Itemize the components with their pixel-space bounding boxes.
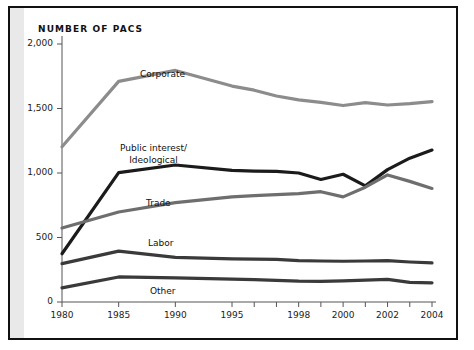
y-tick-label: 1,000 (27, 167, 53, 177)
chart-frame: NUMBER OF PACS 05001,0001,5002,000198019… (8, 6, 458, 340)
y-tick-label: 2,000 (27, 38, 53, 48)
line-chart-svg (10, 8, 460, 342)
y-tick-label: 500 (36, 232, 53, 242)
series-label-line2: Ideological (120, 154, 187, 166)
x-tick-label: 1985 (103, 310, 135, 320)
series-label-3: Labor (148, 237, 173, 249)
x-tick-label: 1980 (46, 310, 78, 320)
y-tick-label: 0 (47, 296, 53, 306)
chart-page: NUMBER OF PACS 05001,0001,5002,000198019… (0, 0, 474, 350)
x-tick-label: 1995 (216, 310, 248, 320)
series-line-2 (62, 175, 432, 228)
x-tick-label: 2000 (327, 310, 359, 320)
plot-area: 05001,0001,5002,000198019851990199519982… (10, 8, 460, 342)
series-label-2: Trade (146, 197, 171, 209)
series-label-0: Corporate (140, 68, 185, 80)
y-tick-label: 1,500 (27, 103, 53, 113)
series-label-1: Public interest/Ideological (120, 142, 187, 166)
series-line-3 (62, 251, 432, 264)
x-tick-label: 1990 (159, 310, 191, 320)
series-label-4: Other (150, 285, 176, 297)
series-line-4 (62, 277, 432, 288)
series-group (62, 70, 432, 287)
series-line-0 (62, 70, 432, 146)
series-label-line1: Public interest/ (120, 142, 187, 154)
series-line-1 (62, 150, 432, 254)
x-tick-label: 2002 (372, 310, 404, 320)
x-tick-label: 2004 (416, 310, 448, 320)
x-tick-label: 1998 (283, 310, 315, 320)
